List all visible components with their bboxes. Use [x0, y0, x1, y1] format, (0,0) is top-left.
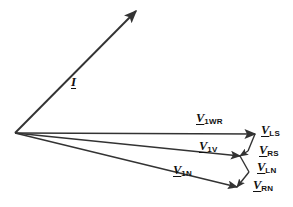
- phasor-vectors-svg: [0, 0, 293, 207]
- vector-vln: [240, 156, 249, 172]
- label-vln: VLN: [257, 161, 276, 174]
- vector-group: [15, 11, 255, 187]
- label-v1n: V1N: [173, 164, 192, 177]
- label-current-I: I: [71, 72, 76, 90]
- phasor-diagram-figure: I V1WR V1V V1N VLS VRS VLN VRN: [0, 0, 293, 207]
- label-vrs-subscript: RS: [267, 149, 279, 158]
- label-v1wr: V1WR: [196, 112, 223, 125]
- label-current-I-symbol: I: [71, 74, 76, 89]
- vector-vrn: [237, 172, 249, 187]
- label-v1n-subscript: 1N: [181, 169, 192, 178]
- label-vrs: VRS: [259, 144, 279, 157]
- vector-vrs: [240, 151, 248, 156]
- label-vrn: VRN: [253, 179, 273, 192]
- label-v1v-subscript: 1V: [207, 145, 217, 154]
- vector-v1wr: [15, 133, 255, 134]
- label-vrn-subscript: RN: [261, 184, 273, 193]
- vector-vls: [248, 134, 255, 151]
- label-vls-subscript: LS: [269, 129, 280, 138]
- label-v1v: V1V: [199, 140, 218, 153]
- label-vls: VLS: [261, 124, 280, 137]
- label-vln-subscript: LN: [265, 166, 276, 175]
- label-v1wr-subscript: 1WR: [204, 117, 222, 126]
